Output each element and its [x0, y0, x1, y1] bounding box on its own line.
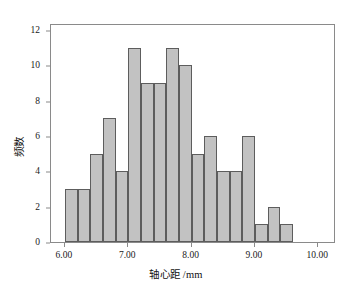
x-tick-label: 6.00 — [56, 251, 73, 261]
y-tick-label: 12 — [31, 26, 41, 36]
histogram-bar — [217, 171, 230, 242]
x-tick-label: 8.00 — [182, 251, 199, 261]
histogram-bar — [116, 171, 129, 242]
x-tick-mark — [254, 243, 255, 247]
histogram-bar — [128, 48, 141, 242]
histogram-bar — [141, 83, 154, 242]
x-tick-label: 10.00 — [307, 251, 328, 261]
x-tick-mark — [64, 243, 65, 247]
x-tick-label: 7.00 — [119, 251, 136, 261]
x-axis-label: 轴心距 /mm — [0, 266, 352, 281]
y-tick-label: 8 — [35, 97, 40, 107]
x-tick-mark — [317, 243, 318, 247]
x-tick-mark — [127, 243, 128, 247]
histogram-bar — [204, 136, 217, 242]
y-tick-label: 10 — [31, 62, 41, 72]
y-axis: 024681012 — [0, 0, 50, 243]
histogram-bar — [242, 136, 255, 242]
histogram-bar — [90, 154, 103, 242]
histogram-bar — [103, 118, 116, 242]
y-tick-label: 4 — [35, 168, 40, 178]
x-tick-mark — [191, 243, 192, 247]
histogram-bar — [65, 189, 78, 242]
histogram-figure: 频数 024681012 6.007.008.009.0010.00 轴心距 /… — [0, 0, 352, 293]
histogram-bar — [154, 83, 167, 242]
histogram-bar — [255, 224, 268, 242]
x-tick-label: 9.00 — [246, 251, 263, 261]
bars-layer — [51, 25, 334, 242]
histogram-bar — [280, 224, 293, 242]
y-tick-label: 2 — [35, 203, 40, 213]
y-tick-label: 6 — [35, 132, 40, 142]
histogram-bar — [192, 154, 205, 242]
plot-area — [50, 24, 335, 243]
histogram-bar — [268, 207, 281, 242]
histogram-bar — [179, 65, 192, 242]
histogram-bar — [78, 189, 91, 242]
histogram-bar — [166, 48, 179, 242]
histogram-bar — [230, 171, 243, 242]
